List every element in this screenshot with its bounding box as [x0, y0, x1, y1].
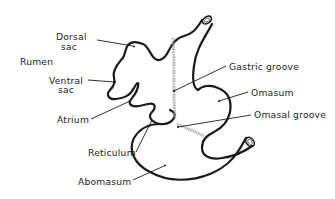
label-ventral-sac-line2: sac: [58, 84, 74, 95]
label-reticulum: Reticulum: [88, 147, 136, 158]
duodenum-tube: [132, 124, 246, 180]
label-atrium: Atrium: [57, 114, 89, 125]
rumen-reticulum-outline: [108, 20, 202, 124]
label-gastric-groove: Gastric groove: [229, 61, 299, 72]
leader-omasum: [218, 92, 248, 102]
ruminant-stomach-diagram: Dorsal sac Rumen Ventral sac Atrium Reti…: [0, 0, 335, 199]
label-omasal-groove: Omasal groove: [254, 109, 326, 120]
gastric-groove-shading: [173, 38, 175, 118]
label-rumen: Rumen: [20, 56, 53, 67]
leader-reticulum: [136, 120, 152, 152]
label-dorsal-sac-line2: sac: [61, 41, 77, 52]
omasal-groove-shading: [177, 124, 204, 136]
leader-atrium: [91, 101, 130, 120]
leader-ventral-sac: [88, 80, 116, 83]
label-abomasum: Abomasum: [78, 176, 131, 187]
leader-omasal-groove: [177, 115, 251, 128]
label-omasum: Omasum: [251, 87, 294, 98]
